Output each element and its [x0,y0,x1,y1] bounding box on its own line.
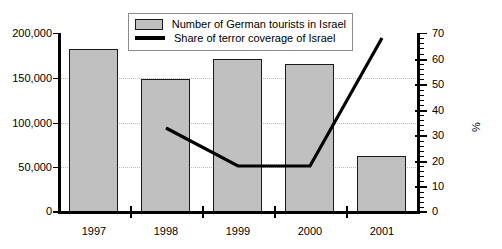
y-right-minor-tick [418,171,424,172]
y-right-minor-tick [418,202,424,203]
y-right-tick-60 [415,59,427,61]
y-right-tick-50 [415,84,427,86]
y-right-minor-tick [418,95,424,96]
y-left-label-50000: 50,000 [0,161,52,173]
x-axis-label-1999: 1999 [198,225,278,237]
x-axis [58,211,420,214]
y-right-minor-tick [418,151,424,152]
y-right-label-30: 30 [432,129,472,141]
y-left-label-0: 0 [0,205,52,217]
y-right-minor-tick [418,156,424,157]
y-left-label-100000: 100,000 [0,117,52,129]
y-right-tick-10 [415,186,427,188]
y-right-minor-tick [418,125,424,126]
y-right-tick-30 [415,135,427,137]
y-left-label-150000: 150,000 [0,72,52,84]
y-right-minor-tick [418,43,424,44]
y-right-label-10: 10 [432,180,472,192]
y-right-minor-tick [418,64,424,65]
y-right-label-70: 70 [432,27,472,39]
y-right-tick-70 [420,33,427,34]
y-right-tick-0 [415,211,427,213]
y-left-tick-100000 [53,123,59,124]
x-tick-boundary [346,206,348,218]
y-right-tick-40 [415,110,427,112]
y-right-minor-tick [418,176,424,177]
y-right-minor-tick [418,48,424,49]
x-axis-label-1997: 1997 [54,225,134,237]
y-right-minor-tick [418,197,424,198]
y-right-minor-tick [418,115,424,116]
y-right-minor-tick [418,181,424,182]
x-axis-label-2001: 2001 [342,225,422,237]
chart-legend: Number of German tourists in Israel Shar… [128,13,353,51]
y-left-tick-50000 [53,167,59,168]
legend-item-terror-coverage: Share of terror coverage of Israel [135,31,346,45]
y-right-minor-tick [418,69,424,70]
y-left-tick-150000 [53,78,59,79]
y-right-minor-tick [418,120,424,121]
y-right-minor-tick [418,207,424,208]
x-tick-boundary [130,206,132,218]
y-right-minor-tick [418,146,424,147]
y-right-minor-tick [418,192,424,193]
legend-label-tourists: Number of German tourists in Israel [172,18,346,30]
y-right-minor-tick [418,79,424,80]
y-left-tick-200000 [53,33,59,34]
y-right-label-40: 40 [432,104,472,116]
y-right-minor-tick [418,38,424,39]
chart-container: 200,000 150,000 100,000 50,000 0 70 60 5… [0,0,502,249]
y-right-minor-tick [418,105,424,106]
x-axis-label-1998: 1998 [126,225,206,237]
y-right-minor-tick [418,54,424,55]
y-right-minor-tick [418,141,424,142]
y-right-minor-tick [418,166,424,167]
y-right-minor-tick [418,100,424,101]
x-axis-label-2000: 2000 [270,225,350,237]
y-right-minor-tick [418,130,424,131]
y-right-axis-title: % [470,122,482,132]
line-swatch-icon [135,36,165,40]
y-left-label-200000: 200,000 [0,27,52,39]
y-right-label-0: 0 [432,205,472,217]
bar-swatch-icon [135,19,163,30]
y-right-label-50: 50 [432,78,472,90]
legend-item-tourists: Number of German tourists in Israel [135,17,346,31]
x-tick-boundary [202,206,204,218]
y-right-minor-tick [418,90,424,91]
legend-label-terror-coverage: Share of terror coverage of Israel [174,32,335,44]
y-right-label-20: 20 [432,155,472,167]
y-right-tick-20 [415,161,427,163]
x-tick-boundary [274,206,276,218]
y-left-tick-0 [53,211,59,213]
y-right-minor-tick [418,74,424,75]
y-right-label-60: 60 [432,53,472,65]
